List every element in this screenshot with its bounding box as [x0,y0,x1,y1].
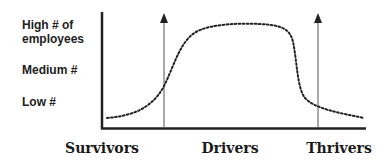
arrowhead-up-icon [160,13,168,23]
x-label-survivors: Survivors [65,140,139,156]
divider-arrow-right [314,13,322,128]
x-label-thrivers: Thrivers [306,140,372,156]
divider-arrow-left [160,13,168,128]
arrowhead-up-icon [314,13,322,23]
x-label-drivers: Drivers [201,140,258,156]
dotted-bell-curve [107,24,364,118]
